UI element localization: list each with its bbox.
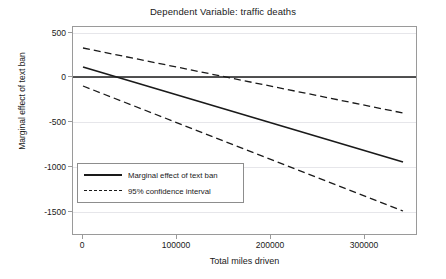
- chart-title: Dependent Variable: traffic deaths: [0, 6, 446, 17]
- x-tick-mark-300000: [364, 235, 365, 239]
- plot-area: [72, 26, 417, 235]
- chart-legend: Marginal effect of text ban 95% confiden…: [77, 163, 244, 203]
- legend-label-marginal-effect: Marginal effect of text ban: [128, 171, 218, 180]
- chart-container: Dependent Variable: traffic deaths 500 0…: [0, 0, 446, 279]
- legend-item-marginal-effect: Marginal effect of text ban: [84, 168, 218, 182]
- x-tick-label-0: 0: [52, 240, 112, 250]
- x-tick-mark-200000: [270, 235, 271, 239]
- y-axis-title: Marginal effect of text ban: [17, 1, 27, 201]
- marginal-effect-line: [83, 67, 403, 162]
- x-tick-label-300000: 300000: [334, 240, 394, 250]
- x-tick-label-200000: 200000: [240, 240, 300, 250]
- x-tick-mark-100000: [176, 235, 177, 239]
- legend-item-confidence-interval: 95% confidence interval: [84, 184, 211, 198]
- x-axis-title: Total miles driven: [72, 256, 417, 266]
- y-tick-label-neg1500: -1500: [20, 207, 66, 217]
- x-tick-label-100000: 100000: [146, 240, 206, 250]
- series-lines: [73, 27, 417, 235]
- legend-key-dashed-icon: [84, 186, 122, 196]
- legend-key-solid-icon: [84, 170, 122, 180]
- x-tick-mark-0: [82, 235, 83, 239]
- legend-label-confidence-interval: 95% confidence interval: [128, 187, 211, 196]
